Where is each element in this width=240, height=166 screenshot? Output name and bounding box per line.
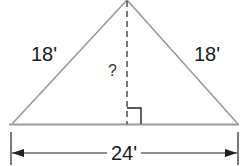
left-arrowhead-icon xyxy=(12,149,24,157)
base-label: 24' xyxy=(107,143,141,163)
height-label: ? xyxy=(108,63,117,79)
right-side xyxy=(127,0,238,124)
right-arrowhead-icon xyxy=(225,149,237,157)
right-side-label: 18' xyxy=(194,44,220,64)
right-angle-marker xyxy=(127,108,141,124)
left-side-label: 18' xyxy=(31,44,57,64)
